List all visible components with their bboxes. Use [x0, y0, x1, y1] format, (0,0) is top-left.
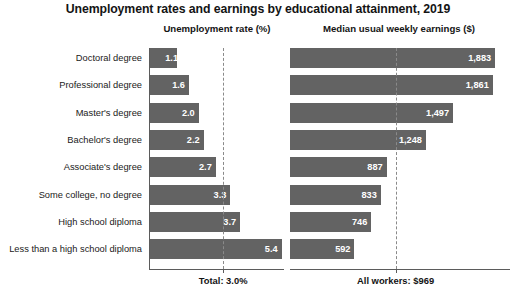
reference-line-earnings [396, 48, 397, 269]
bar-value-label: 1,883 [465, 48, 491, 68]
category-label: Some college, no degree [39, 185, 142, 205]
reference-line-unemployment [223, 48, 224, 269]
bar-value-label: 2.2 [174, 130, 200, 150]
category-label: Master's degree [76, 103, 142, 123]
baseline-earnings [290, 269, 510, 270]
panel-header-unemployment: Unemployment rate (%) [150, 23, 284, 34]
category-label: Bachelor's degree [67, 130, 142, 150]
bar-value-label: 887 [357, 157, 383, 177]
category-label: Less than a high school diploma [9, 239, 142, 259]
chart-title: Unemployment rates and earnings by educa… [0, 2, 516, 16]
bar-value-label: 5.4 [252, 239, 278, 259]
bar-value-label: 2.0 [169, 103, 195, 123]
plot-area-earnings: 1,8831,8611,4971,248887833746592 [290, 48, 512, 270]
category-label: Associate's degree [64, 157, 142, 177]
axis-tick-unemployment [223, 269, 224, 273]
bar-value-label: 1,248 [396, 130, 422, 150]
axis-tick-earnings [396, 269, 397, 273]
category-label: Doctoral degree [76, 48, 142, 68]
bar-value-label: 2.7 [186, 157, 212, 177]
bar-value-label: 1,497 [423, 103, 449, 123]
bar-value-label: 1.1 [152, 48, 178, 68]
chart-container: Unemployment rates and earnings by educa… [0, 0, 516, 298]
footer-note-unemployment: Total: 3.0% [199, 275, 248, 286]
bar-value-label: 746 [341, 212, 367, 232]
footer-note-earnings: All workers: $969 [357, 275, 434, 286]
baseline-unemployment [149, 269, 284, 270]
plot-area-unemployment: 1.11.62.02.22.73.33.75.4 [150, 48, 284, 270]
panel-header-earnings: Median usual weekly earnings ($) [286, 23, 512, 34]
bar-value-label: 833 [351, 185, 377, 205]
bar-value-label: 1,861 [463, 75, 489, 95]
bar-value-label: 592 [324, 239, 350, 259]
category-label: Professional degree [59, 75, 142, 95]
category-label: High school diploma [58, 212, 142, 232]
bar-value-label: 1.6 [159, 75, 185, 95]
